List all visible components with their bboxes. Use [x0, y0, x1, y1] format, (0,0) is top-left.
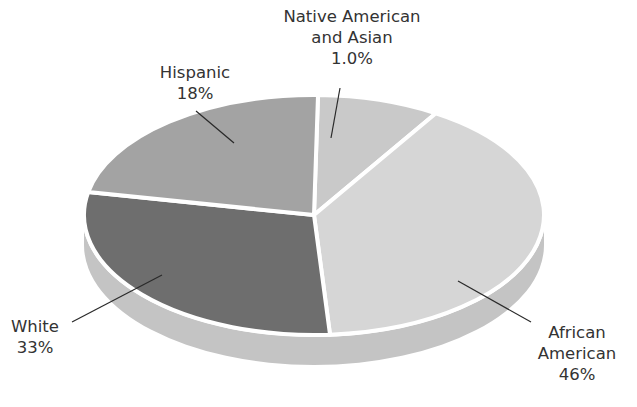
label-white-name: White	[0, 316, 70, 337]
label-hispanic: Hispanic 18%	[140, 62, 250, 104]
pie-slice-hispanic	[88, 95, 318, 215]
label-african-line1: African	[522, 322, 632, 343]
label-african-line2: American	[522, 343, 632, 364]
label-african-american: African American 46%	[522, 322, 632, 385]
label-hispanic-value: 18%	[140, 83, 250, 104]
label-native-value: 1.0%	[262, 48, 442, 69]
label-native-american-asian: Native American and Asian 1.0%	[262, 6, 442, 69]
label-hispanic-name: Hispanic	[140, 62, 250, 83]
label-native-line2: and Asian	[262, 27, 442, 48]
label-native-line1: Native American	[262, 6, 442, 27]
pie-top-surface	[84, 95, 544, 335]
label-african-value: 46%	[522, 364, 632, 385]
label-white-value: 33%	[0, 337, 70, 358]
label-white: White 33%	[0, 316, 70, 358]
